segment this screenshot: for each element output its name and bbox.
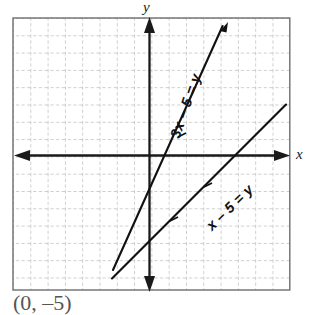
y-axis-label: y (143, 0, 150, 15)
grid-lines (13, 18, 290, 290)
x-axis-label: x (296, 147, 303, 162)
graph-canvas (0, 0, 309, 315)
coordinate-graph-figure: y x 3x – 5 = y x – 5 = y (0, –5) (0, 0, 309, 315)
intersection-point-caption: (0, –5) (13, 292, 72, 314)
